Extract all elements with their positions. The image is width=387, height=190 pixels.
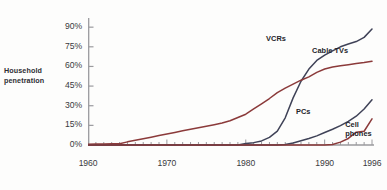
y-tick-label: 0%	[36, 139, 82, 149]
y-tick-label: 15%	[36, 119, 82, 129]
chart-figure: Household penetration 0%15%30%45%60%75%9…	[0, 0, 387, 190]
series-label-vcrs: VCRs	[266, 35, 286, 44]
y-tick-label: 90%	[36, 21, 82, 31]
chart-svg	[88, 16, 378, 155]
y-tick-label: 60%	[36, 60, 82, 70]
y-tick-label: 75%	[36, 41, 82, 51]
y-axis-tick-labels: 0%15%30%45%60%75%90%	[34, 16, 82, 155]
y-tick-label: 45%	[36, 80, 82, 90]
series-label-cell-phones: Cellphones	[345, 121, 372, 138]
x-tick-label: 1970	[158, 158, 177, 168]
x-tick-label: 1996	[363, 158, 382, 168]
x-axis-tick-labels: 19601970198019901996	[88, 158, 387, 174]
y-tick-label: 30%	[36, 100, 82, 110]
series-label-line2: phones	[345, 130, 372, 139]
plot-area: VCRsCable TVsPCsCellphones	[88, 16, 378, 155]
x-tick-label: 1980	[236, 158, 255, 168]
series-label-pcs: PCs	[296, 108, 311, 117]
x-tick-label: 1960	[79, 158, 98, 168]
series-label-cable-tvs: Cable TVs	[312, 47, 348, 56]
x-tick-label: 1990	[315, 158, 334, 168]
